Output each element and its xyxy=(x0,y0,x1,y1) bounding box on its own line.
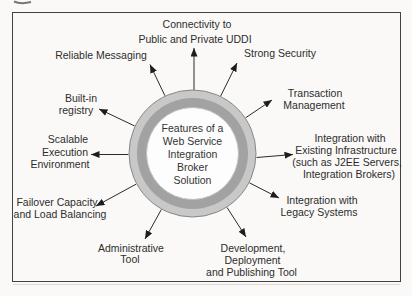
arrow-to-failover xyxy=(96,184,136,206)
label-devtool-line1: Development, xyxy=(221,242,286,254)
label-infrastructure-line2: Existing Infrastructure xyxy=(295,144,397,156)
label-legacy-line2: Legacy Systems xyxy=(280,206,357,218)
label-scalable-line1: Scalable xyxy=(48,133,88,145)
label-devtool-line3: and Publishing Tool xyxy=(206,266,297,278)
label-admin-line2: Tool xyxy=(120,253,139,265)
hub-title-line3: Integration xyxy=(168,148,218,160)
label-registry-line2: registry xyxy=(59,104,94,116)
label-legacy-line1: Integration with xyxy=(286,194,357,206)
hub-title-line4: Broker xyxy=(177,161,208,173)
hub: Features of a Web Service Integration Br… xyxy=(129,90,256,217)
label-infrastructure-line3: (such as J2EE Servers, xyxy=(292,156,402,168)
arrow-to-infrastructure xyxy=(257,155,294,158)
label-infrastructure-line4: Integration Brokers) xyxy=(303,168,395,180)
feature-diagram: Features of a Web Service Integration Br… xyxy=(0,0,412,296)
hub-title-line5: Solution xyxy=(174,174,212,186)
label-reliable-line1: Reliable Messaging xyxy=(55,49,147,61)
arrow-to-transaction xyxy=(246,100,272,118)
label-scalable-line2: Execution xyxy=(42,146,88,158)
label-transaction-line2: Management xyxy=(283,99,344,111)
label-security-line1: Strong Security xyxy=(244,47,317,59)
hub-title-line2: Web Service xyxy=(163,135,222,147)
label-transaction-line1: Transaction xyxy=(288,87,343,99)
arrow-to-security xyxy=(221,63,237,96)
label-failover-line2: and Load Balancing xyxy=(14,208,107,220)
arrow-to-devtool xyxy=(227,207,246,237)
scan-artifact xyxy=(14,2,31,4)
arrow-to-reliable xyxy=(150,65,165,96)
label-uddi-line2: Public and Private UDDI xyxy=(138,33,251,45)
feature-diagram-canvas: Features of a Web Service Integration Br… xyxy=(0,0,412,296)
arrow-to-legacy xyxy=(249,183,279,198)
label-scalable-line3: Environment xyxy=(31,158,90,170)
label-failover-line1: Failover Capacity xyxy=(16,196,98,208)
label-uddi-line1: Connectivity to xyxy=(163,18,232,30)
arrow-to-admin xyxy=(145,209,161,239)
label-registry-line1: Built-in xyxy=(65,92,97,104)
arrow-to-registry xyxy=(99,109,135,126)
hub-title-line1: Features of a xyxy=(162,122,224,134)
label-infrastructure-line1: Integration with xyxy=(314,132,385,144)
label-admin-line1: Administrative xyxy=(98,242,164,254)
label-devtool-line2: Deployment xyxy=(224,254,280,266)
